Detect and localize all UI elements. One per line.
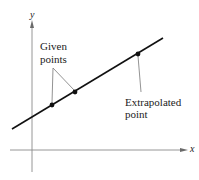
x-axis [10, 148, 188, 152]
y-axis [30, 20, 34, 172]
given-points-label-line1: Given [40, 40, 67, 52]
given-point-2 [73, 90, 78, 95]
extrapolated-point-leader [138, 56, 141, 92]
given-points-label-line2: points [40, 53, 67, 65]
given-point-1 [50, 103, 55, 108]
extrapolated-point [136, 52, 141, 57]
extrapolated-point-label-line2: point [125, 108, 148, 120]
extrapolated-point-label-line1: Extrapolated [125, 96, 181, 108]
x-axis-arrow-icon [180, 148, 188, 152]
y-axis-arrow-icon [30, 20, 34, 28]
diagram-canvas [0, 0, 199, 180]
y-axis-label: y [30, 9, 34, 21]
x-axis-label: x [190, 143, 194, 155]
